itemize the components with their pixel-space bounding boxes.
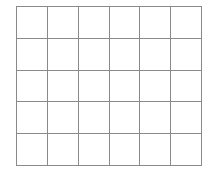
- grid-cell: [17, 39, 48, 71]
- grid-cell: [110, 39, 141, 71]
- grid-cell: [140, 39, 171, 71]
- grid-cell: [110, 134, 141, 166]
- grid-cell: [140, 102, 171, 134]
- grid-cell: [79, 7, 110, 39]
- grid-cell: [171, 7, 202, 39]
- grid-cell: [48, 102, 79, 134]
- grid-cell: [171, 102, 202, 134]
- grid-cell: [171, 134, 202, 166]
- grid-cell: [110, 71, 141, 103]
- grid-cell: [17, 134, 48, 166]
- grid-cell: [79, 102, 110, 134]
- grid-cell: [110, 7, 141, 39]
- grid-cell: [140, 134, 171, 166]
- grid-cell: [79, 134, 110, 166]
- grid-cell: [48, 134, 79, 166]
- grid-cell: [171, 39, 202, 71]
- grid-cell: [17, 102, 48, 134]
- grid-cell: [171, 71, 202, 103]
- grid-cell: [48, 71, 79, 103]
- grid-cell: [48, 7, 79, 39]
- grid-cell: [79, 39, 110, 71]
- grid-cell: [140, 7, 171, 39]
- grid-cell: [17, 71, 48, 103]
- grid-cell: [79, 71, 110, 103]
- empty-grid: [16, 6, 202, 166]
- grid-cell: [110, 102, 141, 134]
- grid-cell: [17, 7, 48, 39]
- grid-cell: [48, 39, 79, 71]
- grid-cell: [140, 71, 171, 103]
